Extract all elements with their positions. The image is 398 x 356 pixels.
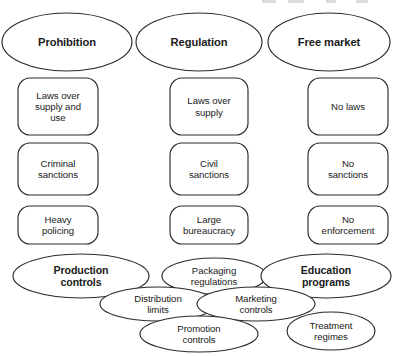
attribute-box-no-enforcement[interactable]	[308, 206, 388, 244]
attribute-box-criminal-sanctions[interactable]	[18, 143, 98, 195]
attribute-box-large-bureaucracy[interactable]	[170, 206, 248, 244]
category-ellipse-regulation[interactable]	[136, 13, 262, 71]
instrument-ellipse-marketing-controls[interactable]	[197, 287, 315, 321]
attribute-box-laws-over-supply[interactable]	[170, 78, 248, 135]
attribute-box-heavy-policing[interactable]	[18, 206, 98, 244]
attribute-box-civil-sanctions[interactable]	[170, 143, 248, 195]
attribute-box-no-sanctions[interactable]	[308, 143, 388, 195]
instrument-ellipse-promotion-controls[interactable]	[140, 316, 258, 352]
attribute-box-group-sanctions	[18, 143, 388, 195]
instrument-ellipse-group	[13, 254, 391, 352]
category-ellipse-free-market[interactable]	[268, 13, 390, 71]
diagram-shapes	[0, 0, 398, 356]
category-ellipse-prohibition[interactable]	[2, 13, 132, 71]
category-ellipse-group	[2, 13, 390, 71]
attribute-box-group-enforcement	[18, 206, 388, 244]
policy-spectrum-diagram: Prohibition Regulation Free market Laws …	[0, 0, 398, 356]
attribute-box-group-laws	[18, 78, 388, 135]
attribute-box-no-laws[interactable]	[308, 78, 388, 135]
instrument-ellipse-treatment-regimes[interactable]	[287, 312, 375, 350]
attribute-box-laws-over-supply-and-use[interactable]	[18, 78, 98, 135]
